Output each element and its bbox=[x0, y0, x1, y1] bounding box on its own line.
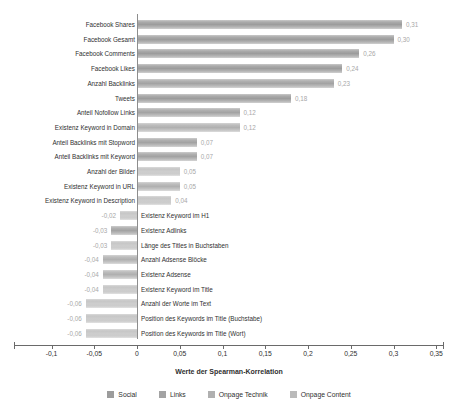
bar-row: Facebook Shares0,31 bbox=[0, 17, 458, 32]
category-label: Anzahl der Bilder bbox=[87, 164, 135, 179]
category-label: Existenz Keyword im H1 bbox=[141, 208, 209, 223]
bar-value-label: 0,05 bbox=[184, 164, 196, 179]
bar-value-label: -0,04 bbox=[81, 267, 99, 282]
x-axis-tick-label: -0,05 bbox=[87, 350, 103, 357]
spearman-correlation-bar-chart: Facebook Shares0,31Facebook Gesamt0,30Fa… bbox=[0, 0, 458, 415]
bar-value-label: 0,26 bbox=[363, 46, 375, 61]
x-axis-tick-mark bbox=[436, 346, 437, 349]
bar bbox=[137, 196, 171, 205]
bar bbox=[137, 20, 402, 29]
bar-value-label: -0,04 bbox=[81, 282, 99, 297]
bar-value-label: 0,12 bbox=[244, 105, 256, 120]
bar-row: Anzahl Backlinks0,23 bbox=[0, 76, 458, 91]
bar-value-label: 0,24 bbox=[346, 61, 358, 76]
legend-item[interactable]: Social bbox=[107, 391, 137, 398]
bar-value-label: 0,07 bbox=[201, 135, 213, 150]
x-axis-tick-mark bbox=[351, 346, 352, 349]
category-label: Facebook Shares bbox=[86, 17, 135, 32]
x-axis-tick-mark bbox=[223, 346, 224, 349]
category-label: Facebook Comments bbox=[75, 46, 135, 61]
legend-item[interactable]: Onpage Content bbox=[290, 391, 351, 398]
x-axis-tick-label: 0,2 bbox=[303, 350, 312, 357]
bar-value-label: 0,04 bbox=[175, 193, 187, 208]
bar bbox=[86, 314, 137, 323]
category-label: Existenz Adsense bbox=[141, 267, 191, 282]
bar-value-label: 0,23 bbox=[338, 76, 350, 91]
category-label: Anteil Backlinks mit Stopword bbox=[52, 135, 135, 150]
bar bbox=[111, 226, 137, 235]
category-label: Existenz Keyword in URL bbox=[64, 179, 135, 194]
bar bbox=[137, 123, 240, 132]
legend-swatch-icon bbox=[208, 391, 215, 398]
bar-row: Existenz Keyword im Title-0,04 bbox=[0, 282, 458, 297]
category-label: Position des Keywords im Title (Buchstab… bbox=[141, 311, 262, 326]
x-axis-tick-mark bbox=[137, 346, 138, 349]
x-axis-right-cap bbox=[443, 342, 444, 349]
bar bbox=[86, 299, 137, 308]
x-axis-line bbox=[14, 345, 444, 346]
bar-value-label: 0,05 bbox=[184, 179, 196, 194]
category-label: Anteil Nofollow Links bbox=[77, 105, 135, 120]
legend-item[interactable]: Links bbox=[159, 391, 186, 398]
bar bbox=[137, 152, 197, 161]
legend-label: Social bbox=[118, 391, 137, 398]
category-label: Existenz Keyword im Title bbox=[141, 282, 213, 297]
x-axis-tick-label: 0,25 bbox=[344, 350, 357, 357]
category-label: Existenz Adlinks bbox=[141, 223, 187, 238]
category-label: Tweets bbox=[115, 91, 135, 106]
plot-area: Facebook Shares0,31Facebook Gesamt0,30Fa… bbox=[0, 14, 458, 339]
legend-label: Links bbox=[170, 391, 186, 398]
bar bbox=[137, 182, 180, 191]
x-axis-tick-mark bbox=[94, 346, 95, 349]
bar-value-label: -0,06 bbox=[64, 296, 82, 311]
bar-row: Anzahl Adsense Blöcke-0,04 bbox=[0, 252, 458, 267]
legend-label: Onpage Technik bbox=[219, 391, 268, 398]
category-label: Anteil Backlinks mit Keyword bbox=[55, 149, 136, 164]
bar bbox=[86, 329, 137, 338]
legend-swatch-icon bbox=[107, 391, 114, 398]
bar bbox=[137, 79, 334, 88]
legend-label: Onpage Content bbox=[301, 391, 351, 398]
bar-value-label: -0,03 bbox=[89, 238, 107, 253]
bar-value-label: -0,06 bbox=[64, 311, 82, 326]
bar bbox=[137, 167, 180, 176]
x-axis-tick-label: 0,35 bbox=[430, 350, 443, 357]
bar-row: Anteil Backlinks mit Stopword0,07 bbox=[0, 135, 458, 150]
legend-item[interactable]: Onpage Technik bbox=[208, 391, 268, 398]
bar bbox=[111, 241, 137, 250]
bar-row: Position des Keywords im Title (Buchstab… bbox=[0, 311, 458, 326]
x-axis-tick-mark bbox=[394, 346, 395, 349]
bar-value-label: 0,18 bbox=[295, 91, 307, 106]
bar-row: Anzahl der Worte im Text-0,06 bbox=[0, 296, 458, 311]
category-label: Anzahl der Worte im Text bbox=[141, 296, 211, 311]
bar bbox=[137, 64, 342, 73]
bar-row: Facebook Gesamt0,30 bbox=[0, 32, 458, 47]
bar-row: Existenz Keyword im H1-0,02 bbox=[0, 208, 458, 223]
bar-row: Existenz Keyword in URL0,05 bbox=[0, 179, 458, 194]
bar-row: Existenz Adsense-0,04 bbox=[0, 267, 458, 282]
x-axis-tick-mark bbox=[265, 346, 266, 349]
category-label: Anzahl Adsense Blöcke bbox=[141, 252, 207, 267]
x-axis-tick-label: -0,1 bbox=[46, 350, 58, 357]
bar-row: Länge des Titles in Buchstaben-0,03 bbox=[0, 238, 458, 253]
bar-row: Facebook Comments0,26 bbox=[0, 46, 458, 61]
legend-swatch-icon bbox=[159, 391, 166, 398]
bar-row: Anzahl der Bilder0,05 bbox=[0, 164, 458, 179]
bar-value-label: -0,03 bbox=[89, 223, 107, 238]
bar-value-label: 0,30 bbox=[398, 32, 410, 47]
x-axis-tick-mark bbox=[180, 346, 181, 349]
category-label: Position des Keywords im Title (Wort) bbox=[141, 326, 246, 341]
category-label: Länge des Titles in Buchstaben bbox=[141, 238, 229, 253]
bar bbox=[137, 49, 359, 58]
bar-value-label: 0,12 bbox=[244, 120, 256, 135]
bar-row: Existenz Keyword in Description0,04 bbox=[0, 193, 458, 208]
x-axis-title: Werte der Spearman-Korrelation bbox=[0, 368, 458, 375]
bar-row: Tweets0,18 bbox=[0, 91, 458, 106]
bar bbox=[137, 94, 291, 103]
x-axis-tick-label: 0 bbox=[135, 350, 139, 357]
bar bbox=[103, 255, 137, 264]
bar bbox=[137, 108, 240, 117]
category-label: Facebook Likes bbox=[91, 61, 135, 76]
bar-value-label: -0,06 bbox=[64, 326, 82, 341]
bar-row: Existenz Adlinks-0,03 bbox=[0, 223, 458, 238]
